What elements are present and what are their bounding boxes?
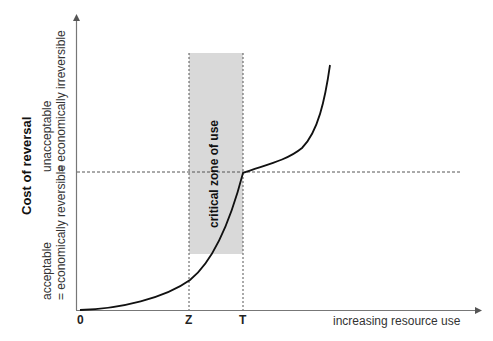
y-axis-lower-label: acceptable = economically reversible — [40, 165, 68, 300]
tick-t: T — [239, 313, 246, 327]
lower-label-line1: acceptable — [40, 165, 54, 300]
lower-label-line2: = economically reversible — [54, 165, 68, 300]
y-axis-upper-label: unacceptable = economically irreversible — [40, 30, 68, 172]
x-axis-arrow-icon — [475, 307, 482, 314]
tick-z: Z — [185, 313, 192, 327]
y-axis-arrow-icon — [73, 14, 80, 21]
y-axis-title: Cost of reversal — [19, 117, 34, 215]
upper-label-line2: = economically irreversible — [54, 30, 68, 172]
diagram-canvas — [0, 0, 493, 341]
tick-0: 0 — [77, 313, 84, 327]
critical-zone-label: critical zone of use — [207, 120, 221, 228]
upper-label-line1: unacceptable — [40, 30, 54, 172]
x-axis-title: increasing resource use — [333, 314, 460, 328]
